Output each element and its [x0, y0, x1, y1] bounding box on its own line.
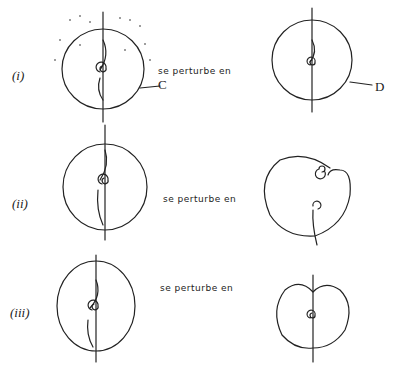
portrait-i-left: [54, 12, 160, 122]
portrait-i-right: [272, 8, 372, 112]
portrait-ii-right: [264, 156, 350, 245]
phase-portraits: [0, 0, 393, 380]
portrait-iii-left: [57, 255, 135, 362]
portrait-ii-left: [63, 125, 147, 240]
portrait-iii-right: [277, 275, 349, 362]
